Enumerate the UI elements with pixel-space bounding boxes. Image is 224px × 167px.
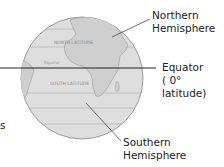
svg-text:NORTH LATITUDE: NORTH LATITUDE: [54, 40, 93, 45]
equator-label: Equator ( 0° latitude): [162, 61, 224, 100]
label-line: Northern: [152, 9, 215, 22]
label-line: Hemisphere: [123, 149, 186, 162]
svg-text:Equator: Equator: [44, 60, 60, 65]
label-line: ( 0° latitude): [162, 74, 224, 100]
edge-text-fragment: s: [0, 119, 5, 132]
northern-hemisphere-label: Northern Hemisphere: [152, 9, 215, 35]
label-line: Hemisphere: [152, 22, 215, 35]
label-line: Equator: [162, 61, 224, 74]
label-line: Southern: [123, 136, 186, 149]
svg-text:SOUTH LATITUDE: SOUTH LATITUDE: [50, 81, 89, 86]
southern-hemisphere-label: Southern Hemisphere: [123, 136, 186, 162]
